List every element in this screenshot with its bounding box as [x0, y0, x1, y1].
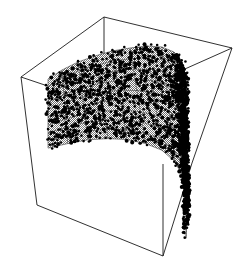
3d-plot-area: [0, 0, 246, 272]
mesh-surface: [48, 46, 188, 238]
3d-scatter-plot-figure: [0, 0, 246, 272]
